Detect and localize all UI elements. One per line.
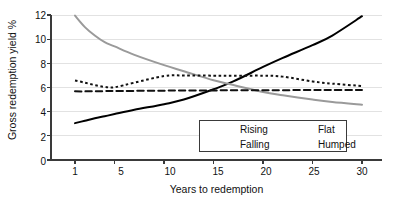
legend-row: Falling Humped [200,137,348,152]
chart-screenshot: Gross redemption yield % 12 10 8 6 4 2 0… [0,0,399,204]
legend-item-falling[interactable]: Falling [207,137,285,152]
legend: Rising Flat Falling Humped [199,120,347,152]
series-line-flat [75,90,362,91]
legend-row: Rising Flat [200,122,348,137]
legend-label-flat: Flat [318,122,335,137]
plot-area [0,0,399,204]
legend-item-rising[interactable]: Rising [207,122,285,137]
series-line-rising [75,16,362,123]
legend-item-flat[interactable]: Flat [285,122,345,137]
legend-label-falling: Falling [240,137,269,152]
series-lines [75,16,362,124]
legend-item-humped[interactable]: Humped [285,137,345,152]
legend-label-rising: Rising [240,122,268,137]
legend-label-humped: Humped [318,137,356,152]
